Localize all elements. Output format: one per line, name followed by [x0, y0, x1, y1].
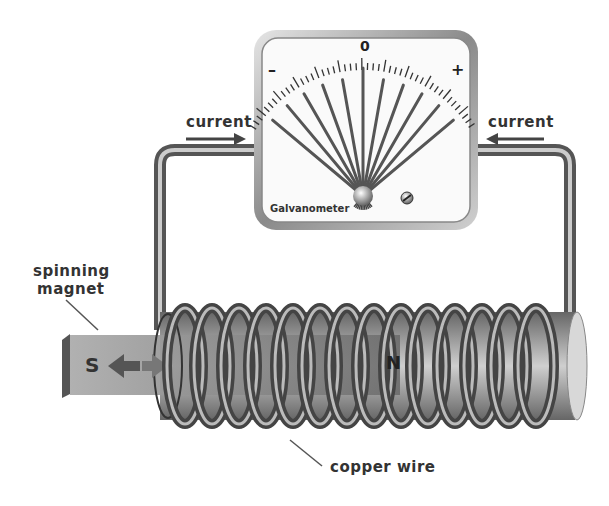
wire-leader-line	[290, 440, 322, 466]
spinning-magnet-label-2: magnet	[37, 280, 105, 298]
copper-wire-coil	[167, 308, 554, 424]
copper-wire-label: copper wire	[330, 458, 436, 476]
galvanometer-label: Galvanometer	[270, 203, 349, 214]
current-right-label: current	[488, 113, 554, 131]
current-arrow-right-icon	[186, 133, 246, 145]
adjust-screw-icon	[401, 192, 413, 204]
meter-plus-label: +	[451, 60, 465, 79]
spinning-magnet-label-1: spinning	[33, 262, 110, 280]
current-left-label: current	[186, 113, 252, 131]
induction-diagram	[0, 0, 609, 506]
current-arrow-left-icon	[486, 133, 544, 145]
meter-zero-label: 0	[360, 38, 370, 54]
magnet-north-label: N	[386, 352, 402, 373]
magnet-leader-line	[66, 300, 98, 330]
magnet-south-label: S	[85, 353, 100, 377]
meter-minus-label: –	[268, 60, 277, 79]
pivot-icon	[353, 186, 373, 206]
galvanometer	[250, 30, 478, 230]
